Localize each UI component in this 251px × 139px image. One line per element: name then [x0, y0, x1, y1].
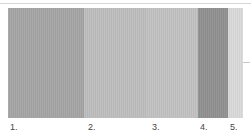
swatch-label-1: 1.: [10, 122, 18, 132]
top-divider: [0, 3, 251, 4]
swatch-label-2: 2.: [88, 122, 96, 132]
swatch-1: [8, 8, 84, 118]
edge-tick-mark: [243, 62, 250, 63]
color-swatch-strip: [8, 8, 243, 118]
swatch-4: [198, 8, 228, 118]
swatch-5: [228, 8, 243, 118]
swatch-3: [146, 8, 198, 118]
swatch-label-4: 4.: [200, 122, 208, 132]
swatch-label-3: 3.: [152, 122, 160, 132]
swatch-label-5: 5.: [230, 122, 238, 132]
swatch-2: [84, 8, 146, 118]
